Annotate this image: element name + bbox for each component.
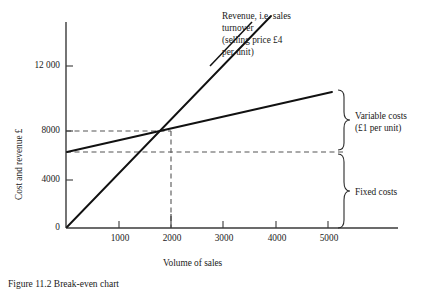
total-cost-line (67, 92, 332, 152)
figure-caption: Figure 11.2 Break-even chart (8, 278, 119, 290)
revenue-annotation: Revenue, i.e. sales turnover (selling pr… (222, 10, 291, 58)
x-tick-label-2000: 2000 (156, 233, 188, 245)
x-axis-title: Volume of sales (163, 258, 222, 270)
variable-costs-brace (338, 90, 350, 150)
x-tick-label-4000: 4000 (261, 233, 293, 245)
x-tick-label-5000: 5000 (313, 233, 345, 245)
y-tick-label-0: 0 (16, 222, 60, 234)
fixed-costs-brace (338, 154, 350, 228)
chart-canvas (0, 0, 421, 290)
x-tick-label-1000: 1000 (104, 233, 136, 245)
break-even-chart: 12 000 8000 4000 0 1000 2000 3000 4000 5… (0, 0, 421, 290)
y-tick-label-12000: 12 000 (16, 60, 60, 72)
x-tick-label-3000: 3000 (208, 233, 240, 245)
y-axis-title: Cost and revenue £ (14, 128, 24, 200)
variable-costs-annotation: Variable costs (£1 per unit) (355, 110, 407, 134)
fixed-costs-annotation: Fixed costs (355, 186, 397, 198)
